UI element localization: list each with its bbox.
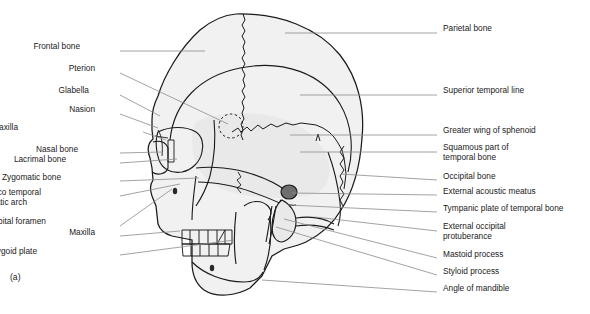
label-lacrimal-bone: Lacrimal bone: [14, 154, 66, 164]
label-squamous-part-of: Squamous part of: [443, 142, 509, 152]
label-lateral-pterygoid-plate: Lateral pterygoid plate: [0, 246, 37, 256]
label-infraorbital-foramen: Infraorbital foramen: [0, 216, 46, 226]
label-zygomatico-temporal: Zygomatico temporal: [0, 187, 41, 197]
label-frontal-process-of-maxilla: Frontal process of maxilla: [0, 122, 18, 132]
figure-marker: (a): [10, 272, 21, 282]
label-protuberance: protuberance: [443, 231, 492, 241]
label-greater-wing-of-sphenoid: Greater wing of sphenoid: [443, 125, 536, 135]
mental-foramen: [210, 265, 214, 271]
leader-angle-of-mandible: [262, 280, 437, 292]
label-occipital-bone: Occipital bone: [443, 171, 496, 181]
external-acoustic-meatus: [281, 185, 297, 199]
bone-shading-group: [148, 14, 362, 295]
label-nasion: Nasion: [69, 104, 95, 114]
label-nasal-bone: Nasal bone: [36, 144, 78, 154]
label-mastoid-process: Mastoid process: [443, 249, 503, 259]
label-frontal-bone: Frontal bone: [33, 41, 80, 51]
label-temporal-bone: temporal bone: [443, 152, 496, 162]
label-glabella: Glabella: [59, 85, 89, 95]
label-maxilla: Maxilla: [69, 227, 95, 237]
infraorbital-foramen: [173, 188, 177, 194]
label-external-acoustic-meatus: External acoustic meatus: [443, 186, 536, 196]
label-superior-temporal-line: Superior temporal line: [443, 85, 524, 95]
label-tympanic-plate-of-temporal-bone: Tympanic plate of temporal bone: [443, 203, 563, 213]
label-angle-of-mandible: Angle of mandible: [443, 283, 509, 293]
skull-lateral-diagram: [0, 0, 590, 314]
label-suture-of-zygomatic-arch: suture of zygomatic arch: [0, 197, 27, 207]
leader-styloid-process: [276, 227, 437, 275]
label-pterion: Pterion: [69, 63, 95, 73]
label-zygomatic-bone: Zygomatic bone: [2, 172, 61, 182]
label-parietal-bone: Parietal bone: [443, 23, 492, 33]
label-external-occipital: External occipital: [443, 221, 506, 231]
label-styloid-process: Styloid process: [443, 266, 499, 276]
